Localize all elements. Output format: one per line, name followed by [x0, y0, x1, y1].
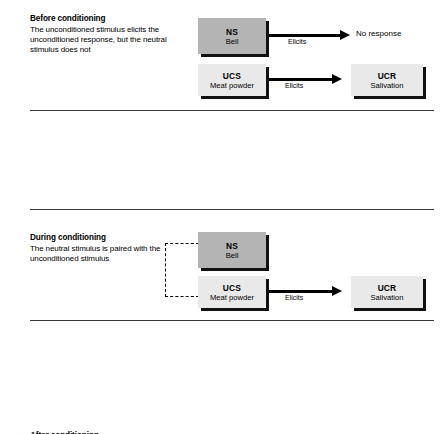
before-no-response-text: No response — [356, 29, 401, 39]
before-ns-name: Bell — [226, 37, 239, 46]
before-ucr-code: UCR — [378, 71, 397, 81]
section-summary: Summary An originally neutral stimulus c… — [0, 320, 446, 434]
before-ucs-arrow-line — [269, 78, 333, 81]
before-ns-arrow-line — [269, 34, 341, 37]
classical-conditioning-diagram: Before conditioning The unconditioned st… — [0, 0, 446, 434]
before-ns-code: NS — [226, 27, 238, 37]
before-ucr-name: Salivation — [371, 81, 404, 90]
before-ucs-code: UCS — [223, 71, 241, 81]
before-body: The unconditioned stimulus elicits the u… — [30, 25, 170, 55]
before-ns-arrow-label: Elicits — [288, 38, 306, 46]
section-during-conditioning: During conditioning The neutral stimulus… — [0, 110, 446, 205]
section-after-conditioning: After conditioning The neutral stimulus … — [0, 209, 446, 314]
before-ns-arrow-head — [340, 30, 350, 40]
before-ucs-box: UCS Meat powder — [198, 64, 266, 96]
before-text-column: Before conditioning The unconditioned st… — [30, 14, 170, 55]
section-before-conditioning: Before conditioning The unconditioned st… — [0, 0, 446, 110]
before-ucs-arrow-head — [332, 74, 342, 84]
before-ucs-arrow-label: Elicits — [285, 82, 303, 90]
before-ucs-name: Meat powder — [210, 81, 254, 90]
before-title: Before conditioning — [30, 14, 170, 24]
before-ns-box: NS Bell — [198, 18, 266, 54]
before-ucr-box: UCR Salivation — [351, 64, 423, 96]
